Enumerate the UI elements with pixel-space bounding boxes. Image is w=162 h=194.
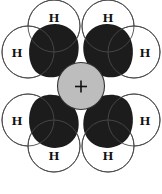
hydrogen-right-lower-label: H <box>140 113 151 128</box>
hydrogen-top-right-label: H <box>103 10 114 25</box>
hydrogen-bottom-right-label: H <box>103 148 114 163</box>
molecule-illustration: H H H H H H H H <box>0 0 162 194</box>
hydrogen-left-lower-label: H <box>12 113 23 128</box>
hydrogen-left-upper-label: H <box>12 45 23 60</box>
hydrogen-top-left-label: H <box>49 10 60 25</box>
molecular-orbital-diagram: H H H H H H H H <box>0 0 162 194</box>
hydrogen-right-upper-label: H <box>140 45 151 60</box>
hydrogen-bottom-left-label: H <box>49 148 60 163</box>
nucleus-group <box>58 63 105 110</box>
